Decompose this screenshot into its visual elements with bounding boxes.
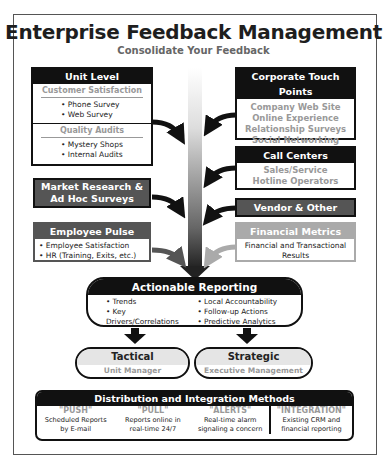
actionable-reporting-header: Actionable Reporting: [88, 279, 301, 295]
financial-header: Financial Metrics: [237, 224, 354, 239]
list-item: • Web Survey: [33, 110, 151, 120]
actionable-reporting-box: Actionable Reporting • Trends • Key Driv…: [86, 277, 303, 327]
method-desc: by E-mail: [37, 425, 114, 434]
method-desc: signaling a concern: [192, 425, 269, 434]
tactical-box: Tactical Unit Manager: [75, 347, 190, 379]
method-pull: "PULL" Reports online in real-time 24/7: [114, 406, 191, 434]
customer-satisfaction-title: Customer Satisfaction: [33, 84, 151, 97]
method-push: "PUSH" Scheduled Reports by E-mail: [37, 406, 114, 434]
strategic-box: Strategic Executive Management: [194, 347, 313, 379]
list-item: Hotline Operators: [237, 176, 354, 187]
method-desc: financial reporting: [271, 425, 352, 434]
list-item: Results: [237, 251, 354, 261]
method-alerts: "ALERTS" Real-time alarm signaling a con…: [192, 406, 269, 434]
market-research-line1: Market Research &: [35, 180, 149, 193]
tactical-subtitle: Unit Manager: [77, 365, 188, 377]
method-desc: Existing CRM and: [271, 416, 352, 425]
down-arrow-icon: [124, 334, 146, 344]
list-item: Company Web Site: [237, 102, 354, 113]
divider: [41, 137, 143, 138]
unit-level-header: Unit Level: [33, 69, 151, 84]
list-item: Sales/Service: [237, 165, 354, 176]
list-item: • HR (Training, Exits, etc.): [35, 251, 149, 261]
list-item: • Local Accountability: [198, 297, 284, 307]
distribution-box: Distribution and Integration Methods "PU…: [35, 390, 354, 441]
quality-audits-title: Quality Audits: [33, 124, 151, 137]
list-item: • Predictive Analytics: [198, 317, 284, 327]
list-item: Online Experience: [237, 113, 354, 124]
corporate-touch-points-box: Corporate Touch Points Company Web Site …: [235, 67, 356, 140]
method-name: "ALERTS": [192, 406, 269, 416]
employee-pulse-box: Employee Pulse • Employee Satisfaction •…: [33, 222, 151, 262]
strategic-title: Strategic: [196, 349, 311, 365]
list-item: • Key Drivers/Correlations: [106, 307, 192, 327]
list-item: • Trends: [106, 297, 192, 307]
list-item: Social Networking: [237, 135, 354, 146]
list-item: • Employee Satisfaction: [35, 239, 149, 251]
method-name: "PULL": [114, 406, 191, 416]
method-integration: "INTEGRATION" Existing CRM and financial…: [269, 406, 352, 434]
list-item: Financial and Transactional: [237, 241, 354, 251]
down-arrow-icon: [236, 334, 258, 344]
financial-metrics-box: Financial Metrics Financial and Transact…: [235, 222, 356, 262]
employee-pulse-header: Employee Pulse: [35, 224, 149, 239]
divider: [41, 97, 143, 98]
method-name: "INTEGRATION": [271, 406, 352, 416]
corporate-header: Corporate Touch Points: [237, 69, 354, 99]
list-item: Relationship Surveys: [237, 124, 354, 135]
vendor-header: Vendor & Other: [237, 200, 354, 215]
vendor-other-box: Vendor & Other: [235, 198, 356, 217]
method-name: "PUSH": [37, 406, 114, 416]
method-desc: Scheduled Reports: [37, 416, 114, 425]
market-research-line2: Ad Hoc Surveys: [35, 193, 149, 205]
tactical-title: Tactical: [77, 349, 188, 365]
distribution-header: Distribution and Integration Methods: [37, 392, 352, 406]
list-item: • Internal Audits: [33, 150, 151, 160]
strategic-subtitle: Executive Management: [196, 365, 311, 377]
list-item: • Phone Survey: [33, 100, 151, 110]
method-desc: Reports online in: [114, 416, 191, 425]
call-centers-header: Call Centers: [237, 148, 354, 163]
list-item: • Follow-up Actions: [198, 307, 284, 317]
unit-level-box: Unit Level Customer Satisfaction • Phone…: [31, 67, 153, 166]
call-centers-box: Call Centers Sales/Service Hotline Opera…: [235, 146, 356, 190]
method-desc: Real-time alarm: [192, 416, 269, 425]
method-desc: real-time 24/7: [114, 425, 191, 434]
list-item: • Mystery Shops: [33, 140, 151, 150]
market-research-box: Market Research & Ad Hoc Surveys: [33, 178, 151, 208]
